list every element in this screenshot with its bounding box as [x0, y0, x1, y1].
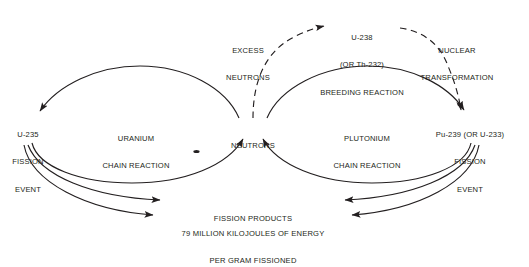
- breeding-line-2: (OR Th-232): [320, 60, 404, 69]
- u235-line-3: EVENT: [12, 185, 43, 194]
- pu239-line-2: FISSION: [436, 157, 504, 166]
- energy-line-1: 79 MILLION KILOJOULES OF ENERGY: [182, 229, 325, 238]
- plutonium-cycle-line-2: CHAIN REACTION: [333, 161, 400, 170]
- neutrons-line-1: NEUTRONS: [231, 141, 275, 150]
- node-label-pu239: Pu-239 (OR U-233) FISSION EVENT: [436, 112, 504, 212]
- node-label-u235: U-235 FISSION EVENT: [12, 112, 43, 212]
- u235-line-1: U-235: [12, 130, 43, 139]
- node-label-uranium-chain-reaction: URANIUM CHAIN REACTION: [102, 116, 169, 189]
- breeding-line-1: U-238: [320, 33, 404, 42]
- node-label-energy-output: 79 MILLION KILOJOULES OF ENERGY PER GRAM…: [182, 211, 325, 267]
- pu239-line-3: EVENT: [436, 185, 504, 194]
- scan-speck: [193, 150, 199, 153]
- uranium-cycle-line-1: URANIUM: [102, 134, 169, 143]
- node-label-plutonium-chain-reaction: PLUTONIUM CHAIN REACTION: [333, 116, 400, 189]
- nuclear-transformation-line-1: NUCLEAR: [421, 46, 494, 55]
- excess-neutrons-line-1: EXCESS: [226, 46, 270, 55]
- breeding-line-3: BREEDING REACTION: [320, 88, 404, 97]
- nuclear-transformation-line-2: TRANSFORMATION: [421, 73, 494, 82]
- node-label-excess-neutrons: EXCESS NEUTRONS: [226, 28, 270, 101]
- uranium-cycle-line-2: CHAIN REACTION: [102, 161, 169, 170]
- edge-neutrons-to-u235: [40, 66, 239, 118]
- node-label-neutrons: NEUTRONS: [231, 123, 275, 168]
- energy-line-2: PER GRAM FISSIONED: [182, 256, 325, 265]
- node-label-nuclear-transformation: NUCLEAR TRANSFORMATION: [421, 28, 494, 101]
- excess-neutrons-line-2: NEUTRONS: [226, 73, 270, 82]
- pu239-line-1: Pu-239 (OR U-233): [436, 130, 504, 139]
- u235-line-2: FISSION: [12, 157, 43, 166]
- node-label-breeding-reaction: U-238 (OR Th-232) BREEDING REACTION: [320, 15, 404, 115]
- plutonium-cycle-line-1: PLUTONIUM: [333, 134, 400, 143]
